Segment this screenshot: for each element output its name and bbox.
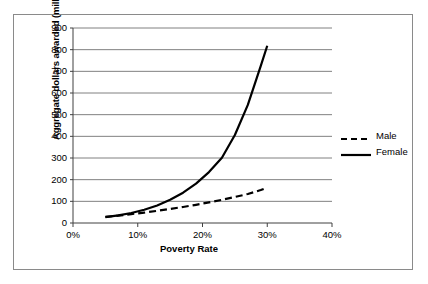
legend-label: Male — [371, 130, 397, 141]
legend-item: Male — [341, 127, 421, 143]
chart-legend: MaleFemale — [341, 127, 421, 159]
legend-label: Female — [371, 146, 408, 157]
chart-root: Aggregate dollars awarded (millions) Pov… — [0, 0, 428, 284]
legend-item: Female — [341, 143, 421, 159]
chart-frame: Aggregate dollars awarded (millions) Pov… — [13, 14, 413, 270]
legend-swatch-male — [341, 130, 371, 140]
legend-swatch-female — [341, 146, 371, 156]
